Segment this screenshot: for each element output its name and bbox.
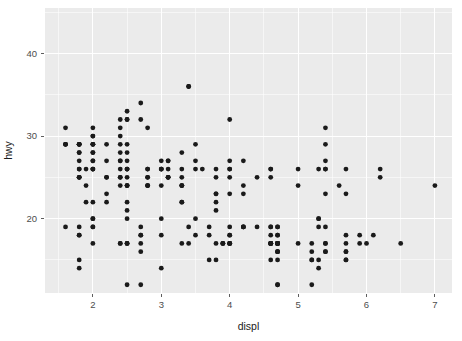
data-point <box>90 125 95 130</box>
data-point <box>125 167 130 172</box>
data-point <box>104 158 109 163</box>
data-point <box>227 241 232 246</box>
data-point <box>241 225 246 230</box>
y-tick-label: 30 <box>26 130 37 141</box>
data-point <box>166 158 171 163</box>
data-point <box>125 117 130 122</box>
data-point <box>125 241 130 246</box>
data-point <box>145 183 150 188</box>
data-point <box>125 208 130 213</box>
data-point <box>268 233 273 238</box>
data-point <box>186 241 191 246</box>
data-point <box>138 117 143 122</box>
data-point <box>193 233 198 238</box>
data-point <box>275 282 280 287</box>
data-point <box>179 167 184 172</box>
data-point <box>268 167 273 172</box>
data-point <box>118 134 123 139</box>
data-point <box>296 183 301 188</box>
data-point <box>371 233 376 238</box>
data-point <box>275 241 280 246</box>
y-axis-title: hwy <box>2 140 14 159</box>
data-point <box>309 249 314 254</box>
data-point <box>227 191 232 196</box>
data-point <box>323 125 328 130</box>
data-point <box>220 241 225 246</box>
data-point <box>227 175 232 180</box>
data-point <box>63 225 68 230</box>
data-point <box>398 241 403 246</box>
data-point <box>138 233 143 238</box>
data-point <box>214 175 219 180</box>
data-point <box>63 142 68 147</box>
data-point <box>186 225 191 230</box>
data-point <box>84 200 89 205</box>
plot-panel-background <box>45 8 452 293</box>
data-point <box>214 191 219 196</box>
data-point <box>138 225 143 230</box>
x-tick-label: 6 <box>364 299 369 310</box>
data-point <box>275 249 280 254</box>
data-point <box>90 134 95 139</box>
data-point <box>316 167 321 172</box>
data-point <box>316 216 321 221</box>
data-point <box>118 142 123 147</box>
data-point <box>378 175 383 180</box>
data-point <box>90 200 95 205</box>
data-point <box>323 142 328 147</box>
data-point <box>145 175 150 180</box>
data-point <box>268 258 273 263</box>
data-point <box>344 167 349 172</box>
data-point <box>323 191 328 196</box>
data-point <box>159 216 164 221</box>
data-point <box>227 225 232 230</box>
data-point <box>344 258 349 263</box>
data-point <box>104 191 109 196</box>
data-point <box>77 158 82 163</box>
data-point <box>90 142 95 147</box>
data-point <box>214 208 219 213</box>
data-point <box>104 142 109 147</box>
data-point <box>125 142 130 147</box>
data-point <box>84 183 89 188</box>
data-point <box>316 266 321 271</box>
data-point <box>255 175 260 180</box>
data-point <box>90 167 95 172</box>
y-tick-label: 20 <box>26 213 37 224</box>
plot-canvas: 234567 203040 displ hwy <box>0 0 462 341</box>
data-point <box>90 150 95 155</box>
data-point <box>125 183 130 188</box>
data-point <box>145 167 150 172</box>
data-point <box>159 183 164 188</box>
data-point <box>104 200 109 205</box>
data-point <box>275 225 280 230</box>
data-point <box>90 225 95 230</box>
data-point <box>84 167 89 172</box>
data-point <box>207 225 212 230</box>
data-point <box>118 167 123 172</box>
data-point <box>309 282 314 287</box>
data-point <box>207 233 212 238</box>
x-axis-title: displ <box>238 320 260 332</box>
data-point <box>125 150 130 155</box>
data-point <box>179 183 184 188</box>
data-point <box>145 125 150 130</box>
data-point <box>159 167 164 172</box>
data-point <box>207 258 212 263</box>
data-point <box>193 167 198 172</box>
x-tick-label: 3 <box>159 299 164 310</box>
data-point <box>275 258 280 263</box>
data-point <box>268 241 273 246</box>
data-point <box>309 241 314 246</box>
data-point <box>241 158 246 163</box>
data-point <box>138 282 143 287</box>
data-point <box>118 241 123 246</box>
data-point <box>309 258 314 263</box>
data-point <box>166 175 171 180</box>
data-point <box>241 183 246 188</box>
data-point <box>323 249 328 254</box>
data-point <box>357 233 362 238</box>
data-point <box>159 266 164 271</box>
data-point <box>179 150 184 155</box>
data-point <box>323 158 328 163</box>
